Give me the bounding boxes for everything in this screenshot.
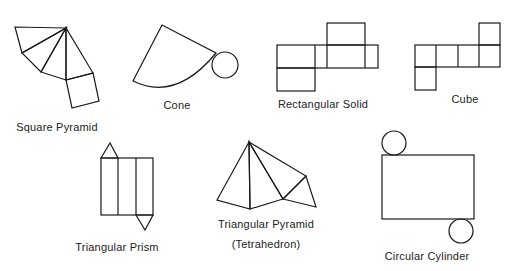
square-pyramid-label: Square Pyramid <box>16 121 98 133</box>
tetra-face-4 <box>283 176 316 207</box>
cube-bottom-face <box>415 67 436 90</box>
cone-base-circle <box>212 52 238 78</box>
tetrahedron-net <box>217 142 316 209</box>
cone-net <box>133 25 238 87</box>
pyramid-face-4 <box>66 28 93 80</box>
cube-top-face <box>479 23 500 45</box>
tetra-face-1 <box>217 142 250 209</box>
square-pyramid-net <box>15 27 99 108</box>
tetrahedron-sublabel: (Tetrahedron) <box>232 238 301 250</box>
pyramid-face-1 <box>15 27 66 53</box>
triangular-prism-label: Triangular Prism <box>75 241 158 253</box>
circular-cylinder-net <box>382 131 474 243</box>
cube-label: Cube <box>451 93 478 105</box>
rect-solid-bottom <box>277 68 315 91</box>
prism-band <box>101 158 153 215</box>
pyramid-face-2 <box>22 28 66 72</box>
pyramid-base-square <box>66 73 99 108</box>
cone-sector <box>133 25 216 87</box>
triangular-prism-net <box>101 143 153 230</box>
cylinder-bottom-circle <box>449 219 473 243</box>
cube-net <box>415 23 500 90</box>
prism-bottom-triangle <box>136 215 153 230</box>
cylinder-lateral-rect <box>382 155 474 219</box>
nets-diagram <box>0 0 514 271</box>
triangular-pyramid-label: Triangular Pyramid <box>218 218 314 230</box>
rectangular-solid-net <box>277 23 378 91</box>
cone-label: Cone <box>163 99 190 111</box>
circular-cylinder-label: Circular Cylinder <box>385 250 470 262</box>
prism-top-triangle <box>101 143 118 158</box>
rectangular-solid-label: Rectangular Solid <box>278 98 368 110</box>
tetra-face-3 <box>249 142 306 199</box>
cylinder-top-circle <box>382 131 406 155</box>
rect-solid-top <box>327 23 365 45</box>
pyramid-face-3 <box>41 28 66 80</box>
